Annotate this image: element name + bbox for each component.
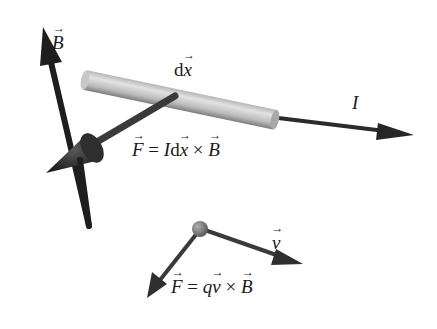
b-symbol: B xyxy=(241,277,253,296)
q-symbol: q xyxy=(203,276,213,297)
equals-sign: = xyxy=(183,276,203,297)
cross-sign: × xyxy=(188,139,208,160)
v-symbol: v xyxy=(212,277,220,296)
f-symbol: F xyxy=(171,277,183,296)
x-symbol: x xyxy=(180,140,188,159)
d-symbol: d xyxy=(170,139,180,160)
force-wire-equation: F = Idx × B xyxy=(132,140,220,159)
cross-sign: × xyxy=(221,276,241,297)
current-label: I xyxy=(352,93,358,112)
i-symbol: I xyxy=(352,92,358,113)
dx-label: dx xyxy=(174,60,192,79)
b-field-label: B xyxy=(52,33,64,52)
velocity-label: v xyxy=(272,233,280,252)
b-field-arrow xyxy=(40,27,89,226)
b-symbol: B xyxy=(52,33,64,52)
v-symbol: v xyxy=(272,233,280,252)
d-symbol: d xyxy=(174,59,184,80)
x-symbol: x xyxy=(184,60,192,79)
equals-sign: = xyxy=(144,139,164,160)
force-charge-equation: F = qv × B xyxy=(171,277,253,296)
b-symbol: B xyxy=(208,140,220,159)
f-symbol: F xyxy=(132,140,144,159)
current-arrow xyxy=(270,117,414,140)
